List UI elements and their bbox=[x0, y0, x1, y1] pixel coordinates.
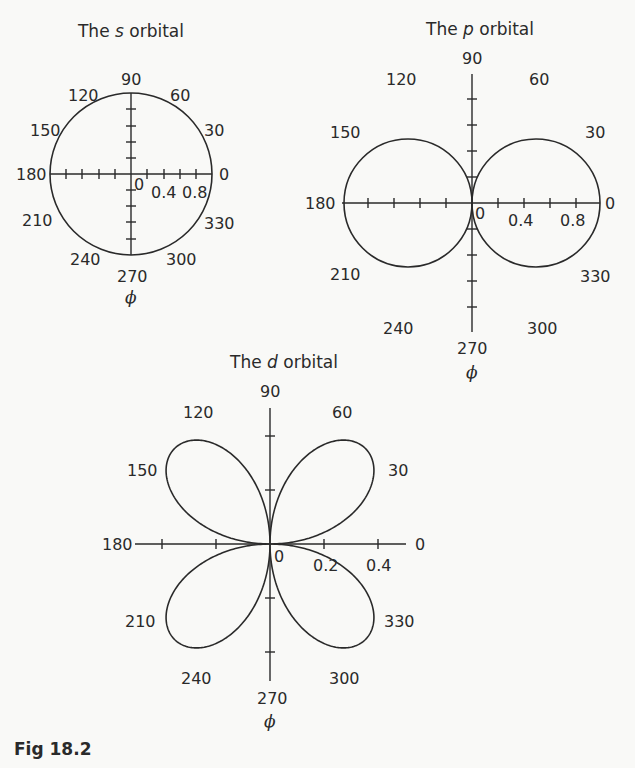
svg-text:0.8: 0.8 bbox=[182, 183, 207, 202]
svg-text:240: 240 bbox=[70, 250, 101, 269]
svg-text:60: 60 bbox=[529, 70, 549, 89]
svg-text:270: 270 bbox=[257, 689, 288, 708]
p-radial-labels: 0 0.4 0.8 bbox=[475, 204, 585, 230]
svg-text:0.8: 0.8 bbox=[560, 211, 585, 230]
svg-text:0.4: 0.4 bbox=[508, 211, 533, 230]
svg-text:90: 90 bbox=[462, 49, 482, 68]
svg-text:60: 60 bbox=[332, 403, 352, 422]
svg-text:60: 60 bbox=[170, 86, 190, 105]
d-radial-labels: 0 0.2 0.4 bbox=[274, 547, 391, 575]
svg-text:150: 150 bbox=[330, 123, 361, 142]
svg-text:30: 30 bbox=[204, 121, 224, 140]
svg-text:180: 180 bbox=[102, 535, 133, 554]
svg-text:0: 0 bbox=[475, 204, 485, 223]
svg-text:210: 210 bbox=[22, 211, 53, 230]
svg-text:0: 0 bbox=[274, 547, 284, 566]
svg-text:180: 180 bbox=[16, 165, 47, 184]
svg-text:270: 270 bbox=[117, 267, 148, 286]
d-orbital-chart: The d orbital 0 30 60 90 120 150 180 210… bbox=[102, 352, 425, 731]
svg-text:210: 210 bbox=[125, 612, 156, 631]
figure-caption: Fig 18.2 bbox=[14, 739, 91, 759]
svg-text:330: 330 bbox=[204, 214, 235, 233]
d-angle-labels: 0 30 60 90 120 150 180 210 240 270 300 3… bbox=[102, 382, 425, 708]
svg-text:330: 330 bbox=[384, 612, 415, 631]
p-orbital-title: The p orbital bbox=[425, 19, 534, 39]
svg-text:30: 30 bbox=[388, 461, 408, 480]
svg-text:150: 150 bbox=[30, 121, 61, 140]
svg-text:0.4: 0.4 bbox=[366, 556, 391, 575]
s-orbital-title: The s orbital bbox=[77, 21, 184, 41]
svg-text:30: 30 bbox=[585, 123, 605, 142]
svg-text:270: 270 bbox=[457, 339, 488, 358]
d-phi-label: ϕ bbox=[264, 711, 276, 731]
svg-text:240: 240 bbox=[383, 319, 414, 338]
svg-text:0.4: 0.4 bbox=[151, 183, 176, 202]
s-orbital-chart: The s orbital 0 30 60 90 120 150 180 210… bbox=[16, 21, 235, 307]
p-orbital-chart: The p orbital 0 30 60 90 120 150 180 210… bbox=[305, 19, 615, 382]
svg-text:300: 300 bbox=[166, 250, 197, 269]
svg-text:300: 300 bbox=[527, 319, 558, 338]
svg-text:0: 0 bbox=[605, 194, 615, 213]
d-orbital-title: The d orbital bbox=[229, 352, 338, 372]
svg-text:90: 90 bbox=[121, 70, 141, 89]
svg-text:120: 120 bbox=[68, 86, 99, 105]
s-phi-label: ϕ bbox=[125, 287, 137, 307]
svg-text:330: 330 bbox=[580, 267, 611, 286]
svg-text:300: 300 bbox=[329, 669, 360, 688]
svg-text:0: 0 bbox=[415, 535, 425, 554]
svg-text:240: 240 bbox=[181, 669, 212, 688]
figure-18-2: The s orbital 0 30 60 90 120 150 180 210… bbox=[0, 0, 635, 768]
svg-text:150: 150 bbox=[127, 461, 158, 480]
svg-text:90: 90 bbox=[260, 382, 280, 401]
svg-text:0: 0 bbox=[134, 175, 144, 194]
svg-text:120: 120 bbox=[183, 403, 214, 422]
svg-text:210: 210 bbox=[330, 265, 361, 284]
s-angle-labels: 0 30 60 90 120 150 180 210 240 270 300 3… bbox=[16, 70, 235, 286]
svg-text:0: 0 bbox=[219, 165, 229, 184]
p-phi-label: ϕ bbox=[466, 362, 478, 382]
s-radial-labels: 0 0.4 0.8 bbox=[134, 175, 207, 202]
svg-text:120: 120 bbox=[386, 70, 417, 89]
svg-text:180: 180 bbox=[305, 194, 336, 213]
svg-text:0.2: 0.2 bbox=[313, 556, 338, 575]
